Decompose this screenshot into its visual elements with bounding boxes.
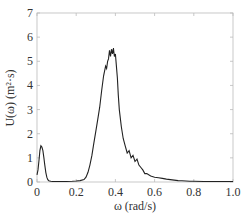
x-axis-label: ω (rad/s) (114, 199, 156, 213)
y-tick-labels: 01234567 (27, 6, 33, 189)
y-tick-label: 3 (27, 103, 33, 117)
y-tick-label: 5 (27, 54, 33, 68)
x-tick-label: 0.4 (108, 185, 123, 199)
y-axis-label: U(ω) (m²·s) (3, 69, 17, 126)
x-tick-label: 0 (34, 185, 40, 199)
spectrum-curve (37, 48, 233, 182)
x-tick-label: 0.6 (147, 185, 162, 199)
x-tick-labels: 00.20.40.60.81.0 (34, 185, 241, 199)
x-tick-label: 0.8 (186, 185, 201, 199)
y-tick-label: 6 (27, 30, 33, 44)
y-tick-label: 1 (27, 151, 33, 165)
plot-frame (37, 13, 233, 182)
y-tick-label: 4 (27, 78, 33, 92)
y-tick-label: 7 (27, 6, 33, 20)
y-tick-label: 2 (27, 127, 33, 141)
spectrum-chart: 00.20.40.60.81.0 01234567 ω (rad/s) U(ω)… (0, 0, 245, 218)
x-tick-label: 1.0 (226, 185, 241, 199)
axis-ticks (37, 13, 233, 182)
x-tick-label: 0.2 (69, 185, 84, 199)
y-tick-label: 0 (27, 175, 33, 189)
